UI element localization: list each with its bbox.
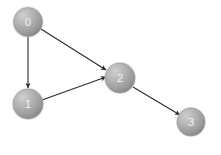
edge-layer <box>28 29 180 115</box>
node-label-1: 1 <box>25 98 31 110</box>
graph-edge-0-2 <box>41 29 106 70</box>
graph-node-1[interactable]: 1 <box>12 88 44 120</box>
graph-edge-2-3 <box>133 87 180 115</box>
node-label-3: 3 <box>188 116 194 128</box>
graph-svg: 0123 <box>0 0 221 155</box>
graph-node-2[interactable]: 2 <box>104 62 136 94</box>
diagram-canvas: 0123 <box>0 0 221 155</box>
node-layer: 0123 <box>12 7 206 137</box>
node-label-2: 2 <box>117 72 123 84</box>
node-label-0: 0 <box>25 16 31 28</box>
graph-edge-1-2 <box>42 77 106 100</box>
graph-node-0[interactable]: 0 <box>13 7 44 38</box>
graph-node-3[interactable]: 3 <box>176 107 206 137</box>
